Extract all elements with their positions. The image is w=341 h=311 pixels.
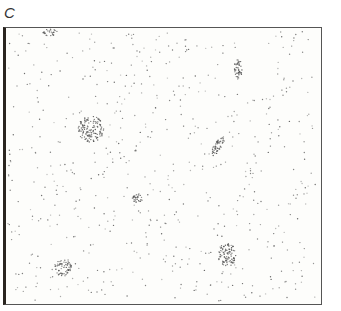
point-distribution [0, 0, 341, 311]
